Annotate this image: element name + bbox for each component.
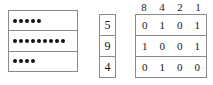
bit-cell: 1 [154,57,172,77]
dot-row [9,11,77,31]
dot-marker [55,39,59,43]
bit-cell: 0 [171,57,189,77]
dot-marker [13,59,17,63]
dot-marker [19,19,23,23]
place-value-header: 8 4 2 1 [135,0,207,14]
table-row: 0 1 0 0 [136,57,206,77]
dot-group-panel [8,10,78,72]
dot-marker [25,19,29,23]
bit-cell: 0 [154,36,172,56]
dot-row [9,52,77,71]
bit-cell: 0 [136,15,154,35]
dot-marker [31,19,35,23]
dot-marker [43,39,47,43]
bit-cell: 1 [136,36,154,56]
bit-cell: 1 [154,15,172,35]
bit-cell: 0 [171,15,189,35]
dot-marker [61,39,65,43]
table-row: 1 0 0 1 [136,36,206,57]
numeral-cell: 9 [100,36,115,57]
table-row: 0 1 0 1 [136,15,206,36]
bit-cell: 1 [189,15,207,35]
place-value-header-cell: 2 [171,0,189,14]
dot-marker [49,39,53,43]
place-value-header-cell: 8 [135,0,153,14]
decimal-numeral-column: 5 9 4 [99,14,116,78]
dot-row [9,31,77,51]
binary-grid: 0 1 0 1 1 0 0 1 0 1 0 0 [135,14,207,78]
dot-marker [25,39,29,43]
numeral-cell: 5 [100,15,115,36]
dot-marker [37,19,41,23]
numeral-cell: 4 [100,57,115,77]
binary-table-panel: 8 4 2 1 0 1 0 1 1 0 0 1 0 1 0 0 [135,0,207,78]
place-value-header-cell: 4 [153,0,171,14]
bit-cell: 0 [136,57,154,77]
dot-marker [31,59,35,63]
dot-marker [19,39,23,43]
dot-marker [37,39,41,43]
bit-cell: 0 [189,57,207,77]
dot-marker [13,19,17,23]
bit-cell: 1 [189,36,207,56]
dot-marker [31,39,35,43]
bit-cell: 0 [171,36,189,56]
dot-marker [19,59,23,63]
dot-marker [13,39,17,43]
place-value-header-cell: 1 [189,0,207,14]
dot-marker [25,59,29,63]
